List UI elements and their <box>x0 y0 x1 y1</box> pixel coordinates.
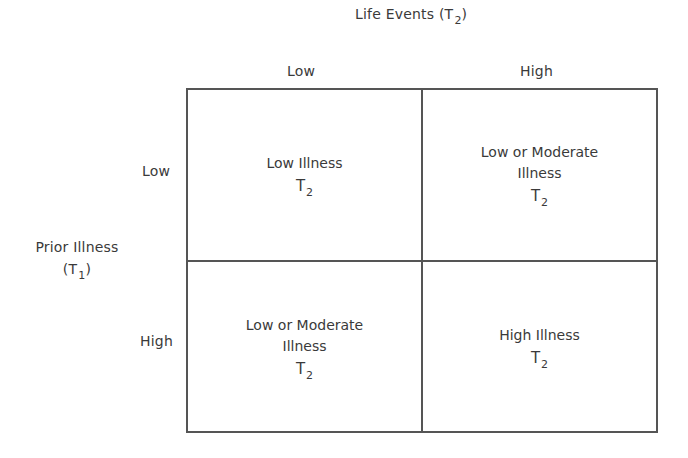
cell-var: T2 <box>531 186 548 208</box>
row-axis-var: T <box>69 261 78 277</box>
cell-low-low: Low Illness T2 <box>188 90 421 260</box>
cell-text: Illness <box>283 336 327 357</box>
cell-text: Low or Moderate <box>481 142 598 163</box>
cell-var: T2 <box>531 348 548 370</box>
contingency-grid: Low Illness T2 Low or Moderate Illness T… <box>186 88 658 433</box>
cell-text: High Illness <box>499 325 580 346</box>
row-axis-sub: 1 <box>78 269 85 282</box>
cell-var-sub: 2 <box>306 186 313 199</box>
column-axis-var: T <box>445 6 454 22</box>
cell-text: Low or Moderate <box>246 315 363 336</box>
cell-text: Illness <box>518 163 562 184</box>
cell-var-sub: 2 <box>306 369 313 382</box>
column-axis-sub: 2 <box>454 14 461 27</box>
cell-var-sub: 2 <box>541 358 548 371</box>
cell-var: T2 <box>296 359 313 381</box>
row-axis-title: Prior Illness (T1) <box>24 236 130 282</box>
cell-var-letter: T <box>296 177 305 195</box>
cell-var-letter: T <box>531 187 540 205</box>
cell-high-low: Low or Moderate Illness T2 <box>188 262 421 433</box>
cell-high-high: High Illness T2 <box>423 262 656 433</box>
row-level-high: High <box>140 333 173 349</box>
row-axis-title-text: Prior Illness <box>24 236 130 258</box>
column-level-high: High <box>520 63 553 79</box>
cell-var-sub: 2 <box>541 196 548 209</box>
cell-low-high: Low or Moderate Illness T2 <box>423 90 656 260</box>
column-axis-title: Life Events (T2) <box>355 6 467 22</box>
row-level-low: Low <box>142 163 170 179</box>
column-level-low: Low <box>287 63 315 79</box>
cell-text: Low Illness <box>266 153 342 174</box>
cell-var: T2 <box>296 176 313 198</box>
row-axis-title-var: (T1) <box>24 258 130 282</box>
cell-var-letter: T <box>531 349 540 367</box>
cell-var-letter: T <box>296 360 305 378</box>
column-axis-title-text: Life Events <box>355 6 434 22</box>
